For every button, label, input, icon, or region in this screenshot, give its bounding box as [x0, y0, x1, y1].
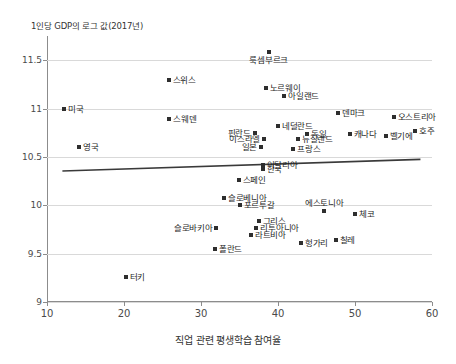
- data-point[interactable]: [124, 275, 128, 279]
- x-tick-label: 30: [195, 308, 208, 319]
- x-tick-mark: [124, 302, 125, 306]
- data-point[interactable]: [249, 233, 253, 237]
- data-point-label: 스위스: [173, 76, 196, 85]
- y-gridline: [47, 60, 432, 61]
- data-point[interactable]: [259, 145, 263, 149]
- y-gridline: [47, 109, 432, 110]
- x-tick-mark: [432, 302, 433, 306]
- data-point[interactable]: [353, 212, 357, 216]
- data-point[interactable]: [336, 111, 340, 115]
- data-point[interactable]: [214, 226, 218, 230]
- data-point[interactable]: [213, 247, 217, 251]
- data-point[interactable]: [296, 137, 300, 141]
- data-point[interactable]: [282, 94, 286, 98]
- y-tick-label: 11: [31, 104, 42, 114]
- x-tick-label: 60: [426, 308, 439, 319]
- x-tick-mark: [47, 302, 48, 306]
- trendline: [47, 36, 432, 302]
- y-tick-label: 9: [36, 297, 42, 307]
- y-gridline: [47, 157, 432, 158]
- y-gridline: [47, 254, 432, 255]
- x-tick-label: 40: [272, 308, 285, 319]
- data-point[interactable]: [237, 178, 241, 182]
- data-point[interactable]: [222, 196, 226, 200]
- y-tick-mark: [43, 205, 47, 206]
- data-point-label: 덴마크: [342, 109, 365, 118]
- data-point[interactable]: [267, 50, 271, 54]
- x-axis-title: 직업 관련 평생학습 참여율: [0, 332, 456, 347]
- data-point-label: 프랑스: [297, 145, 320, 154]
- data-point-label: 미국: [68, 104, 83, 113]
- y-axis-title: 1인당 GDP의 로그 값(2017년): [31, 19, 143, 31]
- data-point-label: 아일랜드: [288, 92, 319, 101]
- data-point-label: 뉴질랜드: [302, 135, 333, 144]
- data-point-label: 네덜란드: [282, 122, 313, 131]
- data-point-label: 체코: [359, 210, 374, 219]
- data-point[interactable]: [167, 78, 171, 82]
- data-point[interactable]: [413, 129, 417, 133]
- y-tick-mark: [43, 254, 47, 255]
- x-tick-mark: [355, 302, 356, 306]
- y-gridline: [47, 302, 432, 303]
- y-tick-mark: [43, 157, 47, 158]
- data-point[interactable]: [254, 226, 258, 230]
- scatter-chart-figure: 1인당 GDP의 로그 값(2017년) 99.51010.51111.5102…: [0, 0, 456, 364]
- data-point[interactable]: [299, 241, 303, 245]
- x-tick-mark: [201, 302, 202, 306]
- data-point-label: 에스토니아: [305, 199, 344, 208]
- data-point[interactable]: [238, 203, 242, 207]
- data-point-label: 헝가리: [305, 239, 328, 248]
- data-point-label: 캐나다: [354, 129, 377, 138]
- data-point[interactable]: [264, 86, 268, 90]
- data-point[interactable]: [291, 147, 295, 151]
- data-point-label: 포르투갈: [244, 201, 275, 210]
- data-point[interactable]: [276, 124, 280, 128]
- y-tick-label: 11.5: [22, 55, 42, 65]
- data-point[interactable]: [77, 145, 81, 149]
- data-point[interactable]: [262, 137, 266, 141]
- x-tick-label: 50: [349, 308, 362, 319]
- data-point-label: 오스트리아: [398, 113, 437, 122]
- y-tick-label: 10.5: [22, 152, 42, 162]
- plot-area: 99.51010.51111.5102030405060룩셈부르크스위스노르웨이…: [47, 36, 432, 302]
- data-point-label: 터키: [130, 273, 145, 282]
- data-point[interactable]: [167, 117, 171, 121]
- x-tick-mark: [278, 302, 279, 306]
- data-point[interactable]: [261, 167, 265, 171]
- data-point[interactable]: [62, 107, 66, 111]
- data-point-label: 영국: [83, 143, 98, 152]
- y-tick-label: 10: [31, 200, 42, 210]
- data-point-label: 호주: [419, 127, 434, 136]
- data-point-label: 라트비아: [255, 231, 286, 240]
- data-point-label: 일본: [242, 143, 257, 152]
- data-point[interactable]: [261, 163, 265, 167]
- x-tick-label: 20: [118, 308, 131, 319]
- data-point[interactable]: [322, 209, 326, 213]
- data-point-label: 칠레: [340, 236, 355, 245]
- y-tick-mark: [43, 60, 47, 61]
- data-point-label: 폴란드: [219, 245, 242, 254]
- y-axis-line: [47, 36, 48, 302]
- data-point-label: 스웨덴: [173, 115, 196, 124]
- data-point-label: 룩셈부르크: [249, 56, 288, 65]
- y-tick-mark: [43, 109, 47, 110]
- data-point[interactable]: [334, 238, 338, 242]
- data-point-label: 벨기에: [390, 131, 413, 140]
- data-point[interactable]: [348, 132, 352, 136]
- data-point[interactable]: [384, 134, 388, 138]
- x-tick-label: 10: [41, 308, 54, 319]
- data-point-label: 스페인: [243, 176, 266, 185]
- y-tick-label: 9.5: [28, 249, 42, 259]
- data-point-label: 한국: [267, 165, 282, 174]
- data-point-label: 슬로바키아: [174, 223, 213, 232]
- data-point[interactable]: [392, 115, 396, 119]
